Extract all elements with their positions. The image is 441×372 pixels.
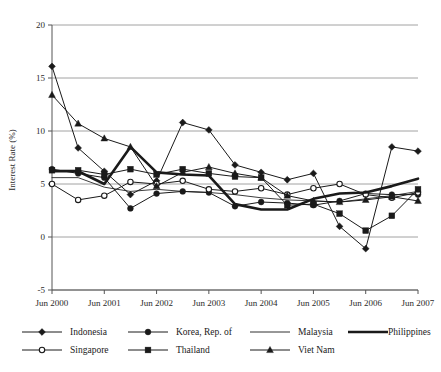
data-point-square <box>363 228 369 234</box>
data-point-circle-open <box>258 186 263 191</box>
y-axis-title: Interest Rate (%) <box>7 129 17 190</box>
y-axis-tick-label: 10 <box>36 126 46 136</box>
y-axis-tick-label: 5 <box>41 179 46 189</box>
x-axis-tick-label: Jun 2002 <box>140 298 173 308</box>
data-point-circle-open <box>311 186 316 191</box>
x-axis-tick-label: Jun 2006 <box>349 298 382 308</box>
legend-label: Indonesia <box>70 327 108 337</box>
data-point-circle-open <box>49 181 54 186</box>
data-point-circle-open <box>206 187 211 192</box>
data-point-square <box>145 347 151 353</box>
data-point-circle-open <box>39 347 44 352</box>
data-point-square <box>389 213 395 219</box>
data-point-square <box>101 172 107 178</box>
data-point-circle <box>128 205 134 211</box>
data-point-circle <box>145 329 151 335</box>
legend-label: Thailand <box>176 345 210 355</box>
legend-label: Viet Nam <box>298 345 335 355</box>
y-axis-tick-label: 0 <box>41 232 46 242</box>
data-point-square <box>337 211 343 217</box>
data-point-circle-open <box>102 193 107 198</box>
data-point-circle-open <box>337 181 342 186</box>
x-axis-tick-label: Jun 2000 <box>36 298 69 308</box>
data-point-circle-open <box>232 189 237 194</box>
y-axis-tick-label: 20 <box>36 20 46 30</box>
legend-label: Philippines <box>388 327 431 337</box>
chart-canvas: -505101520 Jun 2000Jun 2001Jun 2002Jun 2… <box>0 0 441 372</box>
data-point-square <box>128 166 134 172</box>
y-axis-tick-label: 15 <box>36 73 46 83</box>
data-point-square <box>415 186 421 192</box>
y-axis-tick-label: -5 <box>38 285 46 295</box>
x-axis-tick-label: Jun 2001 <box>88 298 121 308</box>
x-axis-tick-label: Jun 2003 <box>192 298 225 308</box>
x-axis-tick-label: Jun 2007 <box>402 298 435 308</box>
data-point-circle-open <box>75 197 80 202</box>
legend-label: Korea, Rep. of <box>176 327 233 337</box>
data-point-circle <box>154 191 160 197</box>
x-axis-tick-label: Jun 2005 <box>297 298 330 308</box>
data-point-circle-open <box>180 178 185 183</box>
data-point-circle <box>258 199 264 205</box>
legend-label: Singapore <box>70 345 109 355</box>
x-axis-tick-label: Jun 2004 <box>245 298 278 308</box>
interest-rate-line-chart: -505101520 Jun 2000Jun 2001Jun 2002Jun 2… <box>0 0 441 372</box>
legend-label: Malaysia <box>298 327 334 337</box>
chart-background <box>0 0 441 372</box>
data-point-circle-open <box>128 179 133 184</box>
